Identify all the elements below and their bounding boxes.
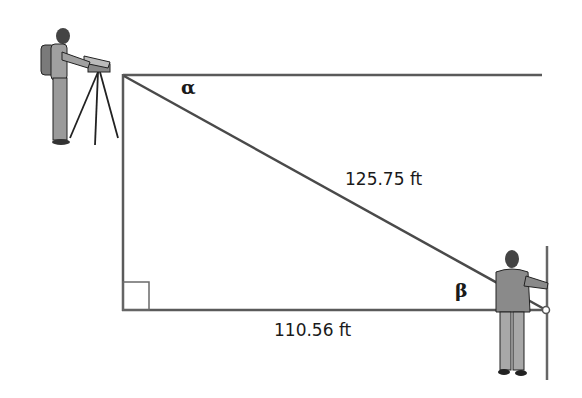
angle-alpha-label: α — [181, 76, 196, 98]
angle-beta-label: β — [455, 279, 468, 301]
pole-holder-figure — [496, 246, 550, 380]
pole-sight-marker — [543, 307, 550, 314]
right-angle-marker — [123, 282, 149, 310]
surveyor-figure — [41, 28, 118, 145]
base-length-label: 110.56 ft — [274, 320, 351, 340]
hypotenuse-length-label: 125.75 ft — [345, 169, 422, 189]
hypotenuse-side — [124, 76, 546, 310]
